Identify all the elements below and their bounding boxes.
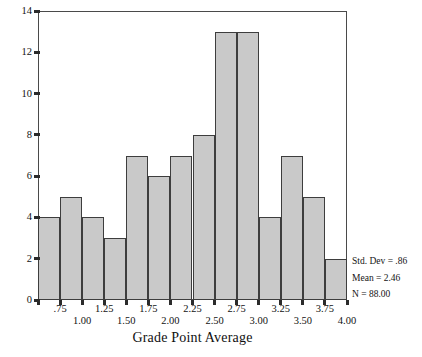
y-axis-label-wrap: 6	[0, 171, 32, 181]
histogram-bar	[215, 32, 237, 300]
x-axis-tick	[125, 300, 128, 305]
x-axis-tick-label: 2.75	[217, 303, 257, 314]
stats-mean: Mean = 2.46	[352, 270, 422, 287]
y-axis-tick	[34, 257, 40, 260]
histogram-bar	[60, 197, 82, 300]
y-axis-tick-label: 14	[6, 6, 32, 16]
y-axis-tick-label: 0	[6, 295, 32, 305]
stats-annotation: Std. Dev = .86 Mean = 2.46 N = 88.00	[352, 253, 422, 303]
histogram-bar	[82, 217, 104, 300]
y-axis-tick-label: 12	[6, 47, 32, 57]
y-axis-label-wrap: 4	[0, 212, 32, 222]
y-axis-label-wrap: 12	[0, 47, 32, 57]
bars-layer	[38, 11, 347, 300]
y-axis-tick-label: 10	[6, 89, 32, 99]
histogram-bar	[325, 259, 347, 300]
y-axis-label-wrap: 0	[0, 295, 32, 305]
y-axis-tick-label: 2	[6, 254, 32, 264]
x-axis-tick-label: 1.25	[84, 303, 124, 314]
x-axis-tick-label: 2.25	[173, 303, 213, 314]
y-axis-label-wrap: 8	[0, 130, 32, 140]
y-axis-label-wrap: 10	[0, 89, 32, 99]
y-axis-tick-label: 6	[6, 171, 32, 181]
x-axis-tick	[213, 300, 216, 305]
x-axis-tick-label: 3.00	[239, 315, 279, 326]
y-axis-tick	[34, 175, 40, 178]
x-axis-tick	[169, 300, 172, 305]
x-axis-tick-label: 4.00	[327, 315, 367, 326]
y-axis-label-wrap: 2	[0, 254, 32, 264]
x-axis-tick-label: 3.25	[261, 303, 301, 314]
x-axis-tick-label: 2.50	[195, 315, 235, 326]
x-axis-tick-label: 1.00	[62, 315, 102, 326]
histogram-bar	[259, 217, 281, 300]
x-axis-tick-label: 3.50	[283, 315, 323, 326]
x-axis-tick	[346, 300, 349, 305]
y-axis-tick-label: 8	[6, 130, 32, 140]
histogram-bar	[126, 156, 148, 301]
y-axis-tick	[34, 92, 40, 95]
histogram-bar	[193, 135, 215, 300]
x-axis-title: Grade Point Average	[38, 330, 347, 346]
y-axis-tick-label: 4	[6, 212, 32, 222]
x-axis-tick-label: 2.00	[150, 315, 190, 326]
x-axis-tick-label: 1.75	[128, 303, 168, 314]
y-axis-tick	[34, 51, 40, 54]
x-axis-tick	[37, 300, 40, 305]
x-axis-tick	[257, 300, 260, 305]
histogram-bar	[237, 32, 259, 300]
histogram-bar	[38, 217, 60, 300]
x-axis-tick	[81, 300, 84, 305]
x-axis-tick-label: 1.50	[106, 315, 146, 326]
y-axis-tick	[34, 10, 40, 13]
x-axis-tick-label: 3.75	[305, 303, 345, 314]
y-axis-label-wrap: 14	[0, 6, 32, 16]
histogram-bar	[170, 156, 192, 301]
stats-std-dev: Std. Dev = .86	[352, 253, 422, 270]
histogram-bar	[281, 156, 303, 301]
histogram-bar	[148, 176, 170, 300]
histogram-bar	[104, 238, 126, 300]
histogram-chart: 02468101214 .751.251.752.252.753.253.751…	[0, 0, 422, 357]
x-axis-tick	[301, 300, 304, 305]
y-axis-tick	[34, 133, 40, 136]
y-axis-tick	[34, 216, 40, 219]
histogram-bar	[303, 197, 325, 300]
x-axis-tick-label: .75	[40, 303, 80, 314]
stats-n: N = 88.00	[352, 286, 422, 303]
